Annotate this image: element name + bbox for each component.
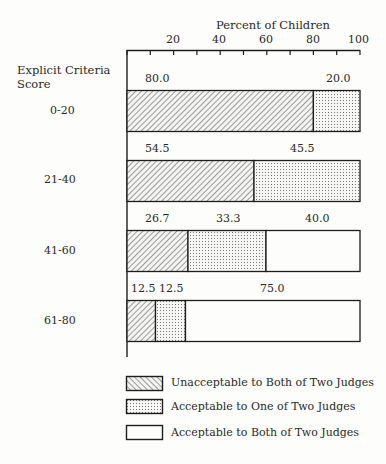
bar-41-60 — [127, 231, 360, 272]
legend-swatch-unacceptable-both — [127, 377, 163, 391]
chart-plot — [0, 0, 386, 464]
legend-swatch-acceptable-both — [127, 426, 163, 440]
segment-acceptable-one — [254, 161, 360, 202]
segment-unacceptable-both — [127, 91, 313, 132]
segment-unacceptable-both — [127, 161, 254, 202]
bar-21-40 — [127, 161, 360, 202]
legend-label-acceptable-one: Acceptable to One of Two Judges — [171, 400, 355, 413]
bar-label-61-80-acceptable-both: 75.0 — [260, 282, 285, 295]
segment-acceptable-one — [313, 91, 360, 132]
segment-acceptable-both — [186, 301, 361, 342]
bar-label-61-80-unacceptable: 12.5 — [131, 282, 156, 295]
bar-label-0-20-unacceptable: 80.0 — [145, 72, 170, 85]
segment-acceptable-both — [266, 231, 360, 272]
legend-label-acceptable-both: Acceptable to Both of Two Judges — [171, 426, 359, 439]
segment-unacceptable-both — [127, 231, 188, 272]
bar-label-61-80-acceptable-one: 12.5 — [159, 282, 184, 295]
bar-label-21-40-acceptable-one: 45.5 — [290, 142, 315, 155]
segment-acceptable-one — [156, 301, 186, 342]
bar-label-41-60-acceptable-one: 33.3 — [216, 212, 241, 225]
x-axis — [127, 50, 360, 55]
bar-label-41-60-unacceptable: 26.7 — [145, 212, 170, 225]
legend-label-unacceptable-both: Unacceptable to Both of Two Judges — [171, 376, 374, 389]
bar-61-80 — [127, 301, 360, 342]
segment-unacceptable-both — [127, 301, 156, 342]
legend-swatch-acceptable-one — [127, 400, 163, 414]
segment-acceptable-one — [188, 231, 266, 272]
bar-label-21-40-unacceptable: 54.5 — [145, 142, 170, 155]
bar-0-20 — [127, 91, 360, 132]
bar-label-41-60-acceptable-both: 40.0 — [305, 212, 330, 225]
bar-label-0-20-acceptable-one: 20.0 — [326, 72, 351, 85]
